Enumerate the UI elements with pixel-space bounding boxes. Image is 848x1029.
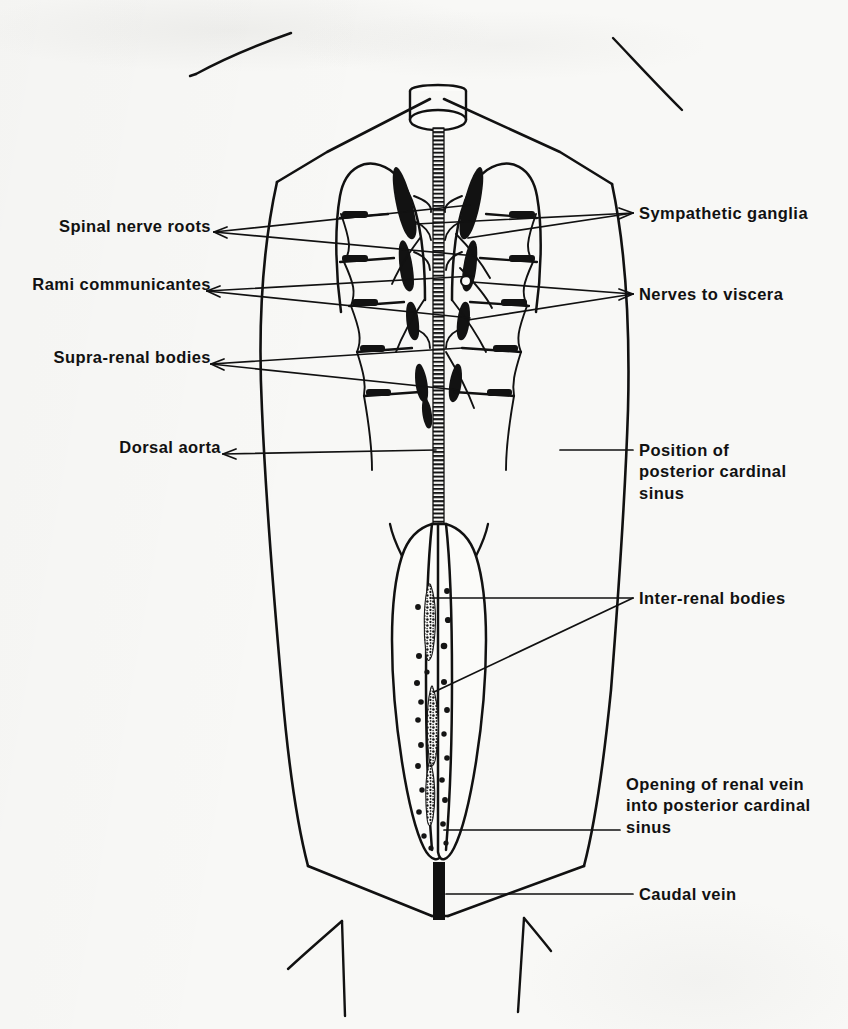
label-inter-renal-bodies[interactable]: Inter-renal bodies: [639, 588, 786, 609]
fin-marks-bottom: [288, 918, 551, 1016]
label-opening-of-renal-vein[interactable]: Opening of renal vein into posterior car…: [626, 774, 811, 838]
figure-page: Spinal nerve roots Rami communicantes Su…: [0, 0, 848, 1029]
dorsal-aorta: [433, 128, 444, 524]
label-dorsal-aorta[interactable]: Dorsal aorta: [101, 437, 221, 458]
label-spinal-nerve-roots[interactable]: Spinal nerve roots: [33, 216, 211, 237]
fin-marks-top: [190, 33, 682, 110]
label-caudal-vein[interactable]: Caudal vein: [639, 884, 737, 905]
label-supra-renal-bodies[interactable]: Supra-renal bodies: [20, 347, 211, 368]
anatomical-drawing: [0, 0, 848, 1029]
label-nerves-to-viscera[interactable]: Nerves to viscera: [639, 284, 783, 305]
kidneys: [392, 524, 486, 859]
label-position-of-posterior-cardinal-sinus[interactable]: Position of posterior cardinal sinus: [639, 440, 786, 504]
caudal-vein-shape: [433, 862, 445, 920]
label-sympathetic-ganglia[interactable]: Sympathetic ganglia: [639, 203, 808, 224]
ganglion-junction: [461, 276, 471, 286]
label-rami-communicantes[interactable]: Rami communicantes: [13, 274, 211, 295]
cut-cylinder: [410, 85, 466, 130]
